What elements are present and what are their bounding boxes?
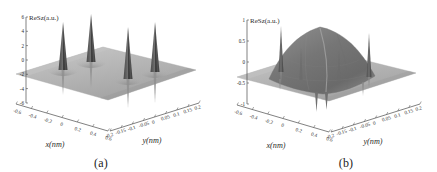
z-tick-a-5: -4 <box>20 86 25 92</box>
x-tick-a-3: 0 <box>60 121 65 128</box>
y-tick-a-2: -0.1 <box>127 124 137 132</box>
z-axis-label-b: ReSz(a.u.) <box>250 17 280 25</box>
x-tick-b-5: 0.4 <box>310 131 318 139</box>
y-tick-a-3: -0.05 <box>138 119 150 128</box>
z-tick-a-1: 4 <box>21 28 24 34</box>
x-axis-label-b: x(nm) <box>265 141 285 150</box>
y-tick-b-4: 0 <box>372 119 377 126</box>
z-tick-labels-b: 1 0.5 0 -0.5 -1 <box>237 17 246 107</box>
z-tick-a-4: -2 <box>20 71 25 77</box>
y-tick-a-5: 0.05 <box>160 113 171 121</box>
z-tick-labels-a: 6 4 2 0 -2 -4 -6 <box>20 14 25 106</box>
y-tick-a-6: 0.1 <box>172 110 180 118</box>
y-axis-label-b: y(nm) <box>362 137 382 146</box>
y-tick-b-3: -0.05 <box>359 120 371 129</box>
y-tick-a-1: -0.15 <box>115 126 127 135</box>
figure-two-panel-surface-plots: 6 4 2 0 -2 -4 -6 ReSz(a.u.) -0 <box>0 0 437 172</box>
panel-a: 6 4 2 0 -2 -4 -6 ReSz(a.u.) -0 <box>0 0 218 172</box>
x-tick-b-0: -0.6 <box>234 108 244 116</box>
panel-caption-a: (a) <box>0 156 210 171</box>
x-tick-a-5: 0.4 <box>89 130 97 138</box>
x-tick-labels-b: -0.6 -0.4 -0.2 0 0.2 0.4 0.6 <box>234 108 334 143</box>
z-tick-b-2: 0 <box>242 59 245 65</box>
x-tick-b-2: -0.2 <box>264 117 274 125</box>
y-tick-a-4: 0 <box>151 118 156 125</box>
x-tick-b-4: 0.2 <box>295 126 303 134</box>
z-tick-a-2: 2 <box>21 43 24 49</box>
z-axis-b <box>247 20 249 104</box>
y-tick-b-1: -0.15 <box>336 127 348 136</box>
z-tick-b-1: 0.5 <box>239 38 246 44</box>
panel-caption-b: (b) <box>237 156 437 171</box>
surface-plot-a: 6 4 2 0 -2 -4 -6 ReSz(a.u.) -0 <box>0 0 218 150</box>
x-tick-a-0: -0.6 <box>13 107 23 115</box>
z-tick-a-3: 0 <box>21 57 24 63</box>
x-tick-a-4: 0.2 <box>74 125 82 133</box>
x-tick-a-1: -0.4 <box>28 112 38 120</box>
y-tick-b-8: 0.2 <box>415 104 423 112</box>
z-axis-a <box>26 17 28 103</box>
y-axis-label-a: y(nm) <box>141 136 161 145</box>
y-tick-b-2: -0.1 <box>348 125 358 133</box>
y-tick-b-0: -0.2 <box>326 132 336 140</box>
x-tick-a-2: -0.2 <box>43 116 53 124</box>
y-tick-a-8: 0.2 <box>194 103 202 111</box>
y-tick-b-5: 0.05 <box>381 114 392 122</box>
y-tick-labels-a: -0.2 -0.15 -0.1 -0.05 0 0.05 0.1 0.15 0.… <box>105 103 202 139</box>
z-tick-a-0: 6 <box>21 14 24 20</box>
y-tick-b-6: 0.1 <box>393 111 401 119</box>
y-tick-a-0: -0.2 <box>105 131 115 139</box>
x-tick-b-1: -0.4 <box>249 113 259 121</box>
surface-plot-b: 1 0.5 0 -0.5 -1 ReSz(a.u.) -0.6 -0.4 <box>219 0 437 150</box>
x-tick-b-3: 0 <box>281 122 286 129</box>
panel-b: 1 0.5 0 -0.5 -1 ReSz(a.u.) -0.6 -0.4 <box>219 0 437 172</box>
x-axis-label-a: x(nm) <box>44 140 64 149</box>
central-dome-b <box>269 27 375 94</box>
y-tick-labels-b: -0.2 -0.15 -0.1 -0.05 0 0.05 0.1 0.15 0.… <box>326 104 423 140</box>
z-tick-b-0: 1 <box>242 17 245 23</box>
y-tick-a-7: 0.15 <box>182 106 193 114</box>
x-tick-labels-a: -0.6 -0.4 -0.2 0 0.2 0.4 0.6 <box>13 107 113 142</box>
z-axis-label-a: ReSz(a.u.) <box>29 14 59 22</box>
y-tick-b-7: 0.15 <box>403 107 414 115</box>
z-tick-b-3: -0.5 <box>237 80 246 86</box>
